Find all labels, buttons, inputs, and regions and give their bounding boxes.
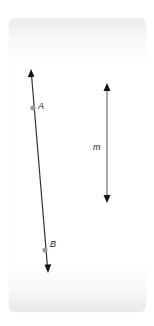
point-a-label: A: [37, 101, 44, 111]
diagram-canvas: A B m: [0, 0, 154, 326]
line-m: m: [93, 83, 111, 203]
line-m-label: m: [93, 142, 101, 152]
line-ab: A B: [28, 69, 56, 273]
arrowhead-down-icon: [104, 195, 111, 203]
diagram-stage: A B m: [0, 0, 154, 326]
arrowhead-up-icon: [28, 69, 35, 77]
point-a: [30, 105, 35, 110]
arrowhead-up-icon: [104, 83, 111, 91]
arrowhead-down-icon: [45, 264, 52, 273]
point-b-label: B: [50, 239, 56, 249]
point-b: [42, 247, 47, 252]
